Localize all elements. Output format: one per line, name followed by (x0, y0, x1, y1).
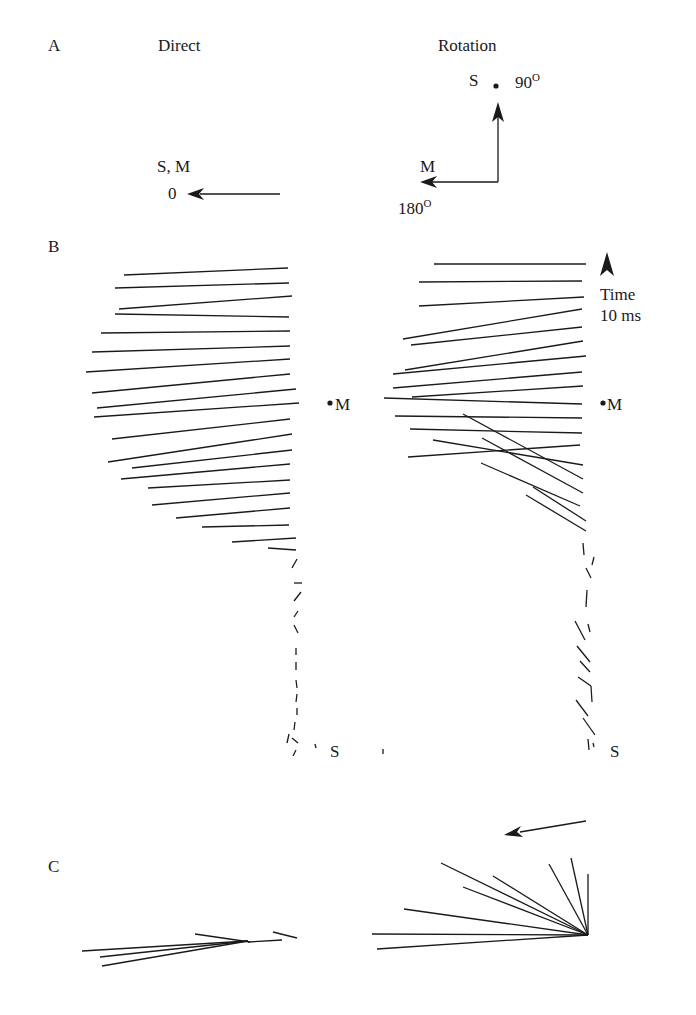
rotation-small-segments (575, 543, 595, 750)
direct-trajectory-lines (86, 268, 299, 550)
panel-c-arrow-icon (504, 821, 586, 837)
rotation-up-arrow-icon (492, 102, 504, 182)
direct-m-dot-icon (327, 400, 332, 405)
direct-small-segments (287, 559, 383, 756)
rotation-trajectory-lines (384, 264, 586, 531)
s-target-dot-icon (493, 83, 498, 88)
rotation-m-dot-icon (600, 400, 605, 405)
figure-graphics (0, 0, 696, 1015)
rotation-left-arrow-icon (420, 176, 498, 188)
direct-arrow-icon (187, 188, 280, 200)
rotation-angle-fan (372, 858, 588, 949)
time-arrow-icon (600, 252, 614, 276)
direct-angle-fan (82, 932, 297, 966)
